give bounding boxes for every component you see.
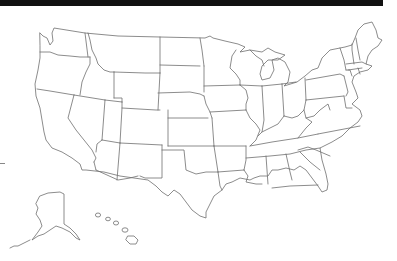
border-nv-id [74, 95, 105, 100]
border-md-de [344, 96, 352, 108]
border-tn-south [246, 148, 320, 158]
border-ut-az [102, 140, 120, 143]
border-id-ut [105, 100, 122, 102]
hawaii-island-molokai-maui [113, 221, 118, 225]
border-ne-ia-mo [204, 96, 212, 118]
border-sd-ne [158, 92, 204, 96]
border-wi-il [240, 85, 262, 86]
border-ok-ar [214, 146, 218, 172]
border-ia-mo [210, 110, 246, 112]
border-in-oh [282, 84, 284, 116]
border-ma-north [346, 62, 366, 64]
border-ga-sc [300, 152, 320, 170]
border-pa-nj [344, 76, 348, 96]
border-ny-vt [340, 48, 346, 70]
border-mt-wy [114, 72, 160, 73]
border-ok-tx [162, 150, 218, 174]
border-va-wv [306, 104, 330, 118]
border-in-ky [262, 116, 284, 132]
border-mo-il [246, 110, 260, 146]
border-or-id [80, 57, 90, 95]
border-ms-al [266, 156, 268, 184]
hawaii-island-maui [122, 228, 128, 232]
border-ma-ct-ri [348, 68, 362, 70]
border-nd-sd [160, 65, 200, 66]
us-states-map [0, 0, 397, 261]
border-nv-az [96, 140, 102, 152]
border-va-nc [318, 126, 360, 134]
border-nd-mn [200, 38, 204, 66]
border-ar-la [218, 170, 244, 172]
border-al-ga [286, 154, 292, 180]
border-mn-wi [230, 50, 240, 85]
border-vt-nh [352, 44, 354, 64]
border-ca-nv [68, 95, 96, 162]
border-oh-pa [305, 78, 306, 100]
hawaii-island-kauai [95, 213, 100, 217]
border-ga-fl [272, 185, 318, 188]
border-oh-wv-ky [284, 100, 306, 118]
border-wy-sd-ne [158, 73, 160, 110]
border-ut-co [120, 102, 122, 143]
border-la-ms [244, 170, 262, 184]
border-in-mi [262, 84, 282, 86]
border-wy-co [122, 108, 160, 110]
border-id-mt [88, 33, 114, 72]
border-ny-ct-ma [346, 70, 352, 76]
border-ky-tn [250, 134, 318, 146]
border-nv-ut [102, 100, 105, 140]
border-co-nm [120, 143, 162, 145]
hawaii-island-big-island [126, 236, 138, 244]
border-nh-me [356, 38, 360, 60]
border-ks-mo [212, 118, 214, 146]
border-pa-md [306, 96, 344, 100]
border-az-nm [117, 143, 120, 180]
border-nm-tx [140, 145, 162, 178]
border-or-ca [37, 89, 74, 95]
border-tx-la [218, 172, 222, 190]
border-wa-or [40, 52, 90, 57]
border-pa-ny [306, 74, 344, 80]
hawaii-island-oahu [106, 217, 111, 221]
border-wa-id [85, 33, 88, 57]
border-ia-il [240, 85, 248, 110]
alaska-aleutians [10, 240, 30, 248]
outline-alaska [32, 192, 80, 240]
border-ca-az [94, 162, 96, 170]
border-mn-ia [204, 85, 240, 86]
border-wi-mi-up [250, 50, 264, 66]
